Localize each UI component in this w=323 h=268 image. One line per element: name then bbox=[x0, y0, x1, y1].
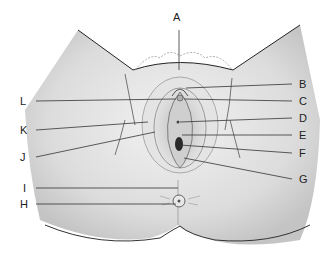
label-i: I bbox=[23, 183, 26, 194]
label-e: E bbox=[299, 130, 306, 141]
label-b: B bbox=[299, 79, 306, 90]
label-f: F bbox=[299, 148, 306, 159]
illustration bbox=[0, 0, 323, 268]
anatomy-diagram: A B C D E F G H I J K L bbox=[0, 0, 323, 268]
label-a: A bbox=[173, 12, 180, 23]
label-g: G bbox=[299, 174, 308, 185]
label-l: L bbox=[20, 96, 26, 107]
label-k: K bbox=[20, 125, 27, 136]
label-h: H bbox=[20, 199, 28, 210]
label-c: C bbox=[299, 96, 307, 107]
label-d: D bbox=[299, 113, 307, 124]
label-j: J bbox=[20, 152, 26, 163]
